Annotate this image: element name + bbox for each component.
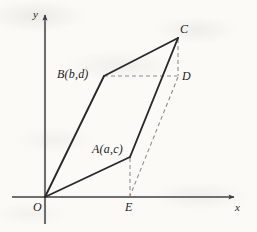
solid-segment-oa <box>45 157 130 197</box>
x-axis-label: x <box>235 202 240 213</box>
y-axis-label: y <box>33 9 38 20</box>
solid-segment-ac <box>130 38 178 157</box>
dashed-segment-de <box>130 77 178 196</box>
point-label-c: C <box>180 23 188 35</box>
coordinate-geometry-figure: y x O A(a,c) B(b,d) C D E <box>0 0 257 232</box>
point-label-e: E <box>125 201 133 213</box>
figure-drawing-canvas <box>0 0 257 232</box>
point-label-b: B(b,d) <box>57 68 89 80</box>
point-label-o: O <box>33 201 42 213</box>
solid-segment-cb <box>104 38 178 76</box>
point-label-d: D <box>182 70 191 82</box>
solid-segment-bo <box>45 76 104 197</box>
point-label-a: A(a,c) <box>92 143 123 155</box>
